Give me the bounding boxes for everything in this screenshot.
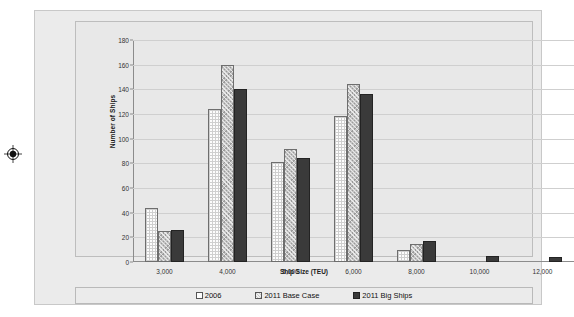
bar-2011-base-case (347, 84, 360, 262)
bar-2011-big-ships (423, 241, 436, 262)
registration-target-icon (4, 145, 22, 163)
bar-group: 12,000 (511, 40, 574, 262)
bar-group: 5,000 (259, 40, 322, 262)
bar-2011-base-case (221, 65, 234, 262)
bar-group: 10,000 (448, 40, 511, 262)
legend-swatch-icon (353, 292, 360, 299)
bar-2011-base-case (410, 244, 423, 263)
bar-group: 8,000 (385, 40, 448, 262)
bar-group: 6,000 (322, 40, 385, 262)
chart-legend: 20062011 Base Case2011 Big Ships (75, 287, 533, 304)
bar-2011-big-ships (297, 158, 310, 262)
y-axis-title: Number of Ships (109, 62, 116, 182)
x-axis-title: Ship Size (TEU) (75, 268, 533, 275)
plot-area: 020406080100120140160180 3,0004,0005,000… (133, 40, 574, 262)
legend-label: 2006 (205, 291, 222, 300)
bar-2011-big-ships (171, 230, 184, 262)
x-tick-label: 12,000 (533, 268, 553, 275)
legend-item[interactable]: 2011 Base Case (255, 291, 319, 300)
bar-2006 (145, 208, 158, 262)
y-tick-label: 40 (122, 209, 129, 216)
y-tick-label: 100 (118, 135, 129, 142)
bar-group: 3,000 (133, 40, 196, 262)
plot-panel: Number of Ships 020406080100120140160180… (75, 21, 533, 257)
bar-2011-base-case (284, 149, 297, 262)
legend-item[interactable]: 2011 Big Ships (353, 291, 412, 300)
legend-label: 2011 Base Case (264, 291, 319, 300)
y-tick-label: 140 (118, 86, 129, 93)
bar-2011-base-case (158, 231, 171, 262)
bar-2006 (208, 109, 221, 262)
bar-2006 (397, 250, 410, 262)
y-tick-label: 20 (122, 234, 129, 241)
bar-2011-big-ships (549, 257, 562, 262)
bar-2011-big-ships (486, 256, 499, 262)
legend-item[interactable]: 2006 (196, 291, 222, 300)
y-tick-label: 60 (122, 185, 129, 192)
bar-2011-big-ships (234, 89, 247, 262)
legend-swatch-icon (196, 292, 203, 299)
bar-2011-big-ships (360, 94, 373, 262)
y-tick-label: 80 (122, 160, 129, 167)
y-tick-label: 160 (118, 61, 129, 68)
bar-2006 (271, 162, 284, 262)
legend-label: 2011 Big Ships (362, 291, 412, 300)
bar-2006 (334, 116, 347, 262)
chart-frame: Number of Ships 020406080100120140160180… (34, 10, 542, 305)
y-tick-label: 0 (125, 259, 129, 266)
bar-group: 4,000 (196, 40, 259, 262)
y-tick-label: 120 (118, 111, 129, 118)
bar-groups: 3,0004,0005,0006,0008,00010,00012,000 (133, 40, 574, 262)
y-tick-label: 180 (118, 37, 129, 44)
legend-swatch-icon (255, 292, 262, 299)
